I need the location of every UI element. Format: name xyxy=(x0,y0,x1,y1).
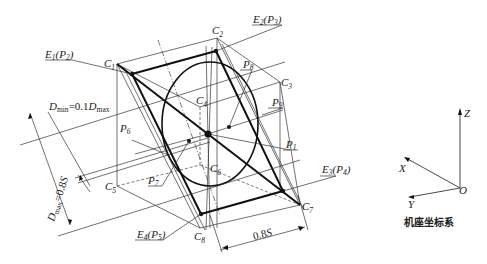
z-arrow-icon xyxy=(458,108,462,115)
axis-label-origin: O xyxy=(459,184,467,196)
label-dmax: Dmax=0.8S xyxy=(44,174,72,224)
label-dmin: Dmin=0.1Dmax xyxy=(48,100,110,114)
axis-label-x: X xyxy=(398,162,407,174)
label-0-8S: 0.8S xyxy=(252,226,274,242)
label-C5: C5 xyxy=(105,180,116,195)
label-E3-P4: E3(P4) xyxy=(321,163,351,177)
label-P9: P9 xyxy=(271,96,283,110)
coordinate-system-caption: 机座坐标系 xyxy=(404,216,454,228)
label-P6: P6 xyxy=(119,122,131,136)
label-C7: C7 xyxy=(302,200,313,215)
label-C6: C6 xyxy=(210,162,221,177)
label-C2: C2 xyxy=(212,24,223,39)
workspace-diagram: C1 C2 C3 C4 C5 C6 C7 C8 E1(P2) E2(P3) E3… xyxy=(0,0,487,264)
label-C8: C8 xyxy=(194,230,205,245)
label-E1-P2: E1(P2) xyxy=(44,48,74,62)
label-C3: C3 xyxy=(281,76,292,91)
label-P8: P8 xyxy=(242,58,254,72)
axis-label-z: Z xyxy=(464,107,471,119)
offset-frame xyxy=(124,44,304,230)
label-C1: C1 xyxy=(104,57,115,72)
label-E2-P3: E2(P3) xyxy=(252,13,282,27)
label-E4-P5: E4(P5) xyxy=(136,228,166,242)
label-P1: P1 xyxy=(285,138,296,152)
axis-label-y: Y xyxy=(408,198,416,210)
base-coordinate-system: Z X Y O 机座坐标系 xyxy=(398,107,471,228)
